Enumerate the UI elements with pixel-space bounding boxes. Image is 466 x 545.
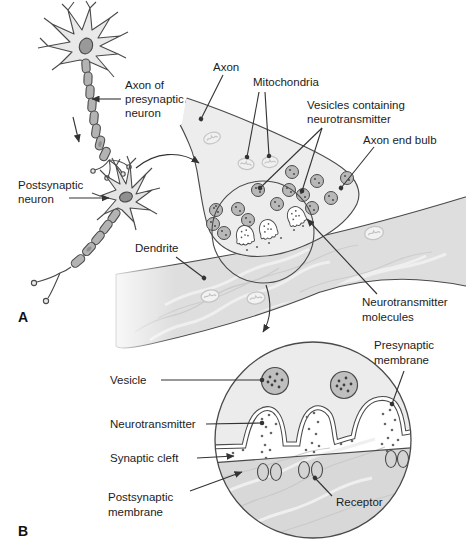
impulse-direction-arrow <box>73 117 79 142</box>
panel-b-label: B <box>18 523 28 539</box>
label-synaptic-cleft: Synaptic cleft <box>110 452 179 464</box>
leader-axon-end-bulb <box>341 147 374 188</box>
vesicle-large <box>331 372 358 399</box>
synapse-figure: Axon of presynaptic neuron Axon Mitochon… <box>0 0 466 545</box>
presynaptic-neuron <box>38 1 131 180</box>
label-vesicles-1: Vesicles containing <box>307 99 405 111</box>
myelinated-axon <box>82 59 112 162</box>
label-presynaptic-membrane-2: membrane <box>374 354 429 366</box>
label-neurotransmitter-molecules-2: molecules <box>362 311 414 323</box>
label-postsynaptic-neuron-1: Postsynaptic <box>18 179 83 191</box>
terminal-bouton <box>31 280 36 285</box>
label-postsynaptic-neuron-2: neuron <box>18 193 54 205</box>
label-vesicle: Vesicle <box>110 374 146 386</box>
panel-a-label: A <box>18 309 28 325</box>
axon-terminal-fork <box>37 267 71 298</box>
label-presynaptic-membrane-1: Presynaptic <box>374 339 434 351</box>
terminal-bouton <box>43 298 48 303</box>
terminal-boutons <box>91 165 131 180</box>
label-receptor: Receptor <box>336 496 383 508</box>
label-neurotransmitter-molecules-1: Neurotransmitter <box>362 296 448 308</box>
synapse-diagram: Axon of presynaptic neuron Axon Mitochon… <box>0 0 466 545</box>
label-postsynaptic-membrane-2: membrane <box>108 506 163 518</box>
label-vesicles-2: neurotransmitter <box>307 113 391 125</box>
synapse-pointer-arrow <box>136 154 199 168</box>
label-axon-end-bulb: Axon end bulb <box>363 134 437 146</box>
label-axon: Axon <box>213 61 239 73</box>
panel-b-synapse <box>198 342 436 545</box>
label-postsynaptic-membrane-1: Postsynaptic <box>108 491 173 503</box>
vesicle-large <box>262 368 289 395</box>
label-mitochondria: Mitochondria <box>253 76 319 88</box>
label-neurotransmitter: Neurotransmitter <box>110 418 196 430</box>
label-dendrite: Dendrite <box>135 242 178 254</box>
label-axon-of-presynaptic-3: neuron <box>125 107 161 119</box>
label-axon-of-presynaptic-2: presynaptic <box>125 93 184 105</box>
label-axon-of-presynaptic-1: Axon of <box>125 79 165 91</box>
dendrite-fade <box>100 255 175 355</box>
